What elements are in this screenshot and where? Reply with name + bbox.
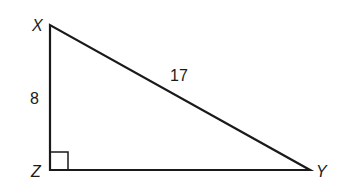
right-angle-marker bbox=[50, 152, 68, 170]
triangle-diagram: X Z Y 8 17 bbox=[0, 0, 337, 196]
vertex-label-z: Z bbox=[30, 163, 42, 180]
side-label-xz: 8 bbox=[30, 90, 39, 107]
side-label-xy: 17 bbox=[170, 67, 188, 84]
triangle-xyz bbox=[50, 25, 310, 170]
vertex-label-y: Y bbox=[316, 163, 328, 180]
vertex-label-x: X bbox=[31, 17, 44, 34]
